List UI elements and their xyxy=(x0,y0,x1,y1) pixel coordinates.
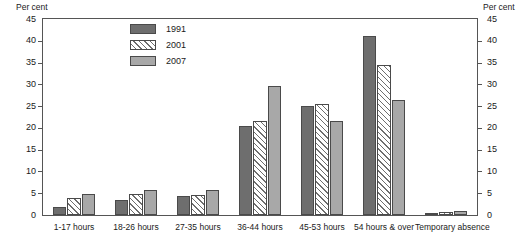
x-axis-label: 45-53 hours xyxy=(291,222,353,232)
bar-1991-1[interactable] xyxy=(53,207,67,215)
bar-2007-5[interactable] xyxy=(330,121,344,215)
bar-1991-5[interactable] xyxy=(301,106,315,215)
bar-group xyxy=(353,19,415,215)
y-tick-label-left: 5 xyxy=(16,189,36,198)
y-tick-label-right: 10 xyxy=(487,167,507,176)
bar-group xyxy=(229,19,291,215)
x-axis-label: 27-35 hours xyxy=(167,222,229,232)
y-tick-label-right: 35 xyxy=(487,58,507,67)
bar-2001-1[interactable] xyxy=(67,198,81,215)
y-tick-label-right: 20 xyxy=(487,123,507,132)
right-axis-caption: Per cent xyxy=(483,2,515,12)
bar-2007-3[interactable] xyxy=(206,190,220,215)
bar-2001-7[interactable] xyxy=(439,212,453,215)
bar-2001-2[interactable] xyxy=(129,194,143,215)
legend-swatch-2001 xyxy=(130,40,156,50)
y-tick-mark-right xyxy=(478,193,482,194)
bar-1991-3[interactable] xyxy=(177,196,191,215)
x-axis-label: 54 hours & over xyxy=(353,222,415,232)
legend-item-1991[interactable]: 1991 xyxy=(130,22,226,36)
bars-layer xyxy=(43,19,477,215)
legend-label: 2007 xyxy=(166,56,186,66)
legend-label: 1991 xyxy=(166,24,186,34)
y-tick-label-left: 0 xyxy=(16,211,36,220)
bar-1991-6[interactable] xyxy=(363,36,377,215)
legend-item-2001[interactable]: 2001 xyxy=(130,38,226,52)
y-tick-label-left: 45 xyxy=(16,15,36,24)
bar-1991-2[interactable] xyxy=(115,200,129,215)
legend-item-2007[interactable]: 2007 xyxy=(130,54,226,68)
y-tick-mark-right xyxy=(478,150,482,151)
y-tick-label-right: 5 xyxy=(487,189,507,198)
bar-2007-7[interactable] xyxy=(454,211,468,215)
legend-swatch-1991 xyxy=(130,24,156,34)
bar-1991-4[interactable] xyxy=(239,126,253,215)
x-axis-label: 18-26 hours xyxy=(105,222,167,232)
legend-label: 2001 xyxy=(166,40,186,50)
y-tick-mark-right xyxy=(478,84,482,85)
bar-2007-2[interactable] xyxy=(144,190,158,215)
y-tick-label-right: 15 xyxy=(487,145,507,154)
legend: 199120012007 xyxy=(130,22,226,70)
bar-group xyxy=(43,19,105,215)
legend-swatch-2007 xyxy=(130,56,156,66)
y-tick-mark-right xyxy=(478,128,482,129)
x-axis-label: 36-44 hours xyxy=(229,222,291,232)
bar-2001-5[interactable] xyxy=(315,104,329,216)
left-axis-caption: Per cent xyxy=(16,2,48,12)
y-tick-label-right: 40 xyxy=(487,36,507,45)
y-tick-label-left: 20 xyxy=(16,123,36,132)
y-tick-label-right: 30 xyxy=(487,80,507,89)
y-tick-label-left: 15 xyxy=(16,145,36,154)
y-tick-label-left: 30 xyxy=(16,80,36,89)
y-tick-mark-right xyxy=(478,171,482,172)
y-tick-label-right: 45 xyxy=(487,15,507,24)
bar-group xyxy=(415,19,477,215)
y-tick-mark-right xyxy=(478,41,482,42)
y-tick-label-right: 25 xyxy=(487,102,507,111)
bar-1991-7[interactable] xyxy=(425,213,439,215)
bar-2007-1[interactable] xyxy=(82,194,96,215)
y-tick-label-right: 0 xyxy=(487,211,507,220)
y-tick-mark-right xyxy=(478,63,482,64)
bar-2001-4[interactable] xyxy=(253,121,267,215)
bar-2001-3[interactable] xyxy=(191,195,205,215)
bar-group xyxy=(291,19,353,215)
y-tick-label-left: 10 xyxy=(16,167,36,176)
y-tick-mark-right xyxy=(478,106,482,107)
bar-2007-4[interactable] xyxy=(268,86,282,215)
x-axis-label: Temporary absence xyxy=(415,222,477,232)
y-tick-label-left: 35 xyxy=(16,58,36,67)
y-tick-label-left: 25 xyxy=(16,102,36,111)
y-tick-label-left: 40 xyxy=(16,36,36,45)
bar-2007-6[interactable] xyxy=(392,100,406,215)
bar-2001-6[interactable] xyxy=(377,65,391,215)
bar-chart: Per cent Per cent 0055101015152020252530… xyxy=(0,0,525,243)
x-axis-label: 1-17 hours xyxy=(43,222,105,232)
